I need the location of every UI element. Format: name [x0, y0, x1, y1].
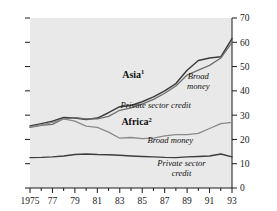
y-tick-label-0: 0: [240, 183, 245, 193]
x-tick-label-1981: 81: [93, 196, 103, 206]
annotation-africa-broad-money: Broad money: [147, 135, 193, 145]
y-tick-label-70: 70: [240, 13, 250, 23]
x-tick-label-1993: 93: [227, 196, 237, 206]
y-tick-label-20: 20: [240, 135, 250, 145]
x-tick-label-1985: 85: [137, 196, 147, 206]
x-axis-ticks: [30, 188, 232, 193]
x-tick-label-1979: 79: [70, 196, 80, 206]
y-axis-tick-labels: 010203040506070: [240, 13, 250, 193]
annotation-asia-broad-money: Broadmoney: [187, 71, 210, 91]
x-tick-label-1989: 89: [182, 196, 192, 206]
y-tick-label-40: 40: [240, 86, 250, 96]
annotation-africa-label: Africa2: [121, 116, 151, 127]
y-axis-right-ticks: [232, 18, 237, 188]
x-tick-label-1983: 83: [115, 196, 125, 206]
y-axis-left-ticks: [25, 18, 30, 188]
x-tick-label-1975: 1975: [21, 196, 40, 206]
x-tick-label-1991: 91: [205, 196, 215, 206]
y-tick-label-50: 50: [240, 62, 250, 72]
annotation-asia-label: Asia1: [122, 68, 144, 79]
line-chart-canvas: 010203040506070 1975777981838587899193 A…: [0, 0, 277, 211]
x-axis-tick-labels: 1975777981838587899193: [21, 196, 238, 206]
chart-figure: 010203040506070 1975777981838587899193 A…: [0, 0, 277, 211]
y-tick-label-10: 10: [240, 159, 250, 169]
annotation-asia-private-sector-credit: Private sector credit: [120, 100, 192, 110]
x-tick-label-1977: 77: [48, 196, 58, 206]
y-tick-label-30: 30: [240, 111, 250, 121]
y-tick-label-60: 60: [240, 38, 250, 48]
x-tick-label-1987: 87: [160, 196, 170, 206]
